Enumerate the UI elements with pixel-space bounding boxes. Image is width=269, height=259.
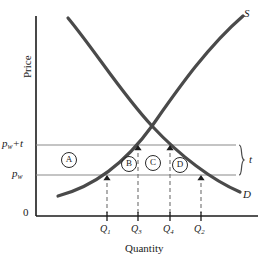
tick-label-q4-subscript: 4 (170, 228, 173, 235)
region-label-d: D (172, 157, 188, 173)
tick-label-q1-subscript: 1 (107, 228, 110, 235)
tick-label-q3: Q3 (131, 224, 142, 236)
origin-label: 0 (23, 207, 29, 218)
diagram-canvas (0, 0, 269, 259)
region-label-a: A (61, 152, 77, 168)
supply-curve-label: S (244, 8, 250, 19)
world-price-subscript: w (18, 172, 23, 181)
y-axis-title: Price (22, 55, 33, 78)
tick-label-q1: Q1 (100, 224, 111, 236)
tariff-amount-label: t (249, 154, 252, 165)
tick-label-q2-subscript: 2 (201, 228, 204, 235)
tick-label-q2: Q2 (194, 224, 205, 236)
tariff-price-suffix: +t (12, 137, 22, 149)
point-d-pw (197, 175, 204, 180)
region-label-b: B (121, 156, 137, 172)
tariff-price-label: pw+t (2, 138, 23, 151)
region-label-c: C (145, 155, 161, 171)
tick-label-q4: Q4 (163, 224, 174, 236)
x-axis-title: Quantity (125, 243, 164, 254)
world-price-label: pw (12, 168, 22, 181)
tariff-welfare-figure: Price Quantity 0 pw+t pw t S D Q1 Q3 Q4 … (0, 0, 269, 259)
tick-label-q3-subscript: 3 (138, 228, 141, 235)
tariff-brace (239, 145, 244, 175)
demand-curve-label: D (243, 189, 251, 200)
